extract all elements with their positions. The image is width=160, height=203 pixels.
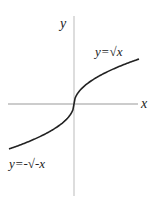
curve-neg-sqrt-neg-x	[9, 104, 74, 149]
curve-sqrt-x	[74, 59, 139, 104]
x-axis-label: x	[140, 96, 148, 111]
annotation-sqrt-x: y=√x	[93, 44, 123, 59]
annotation-neg-sqrt-neg-x: y=-√-x	[7, 156, 45, 171]
sqrt-function-plot: y x y=√x y=-√-x	[0, 0, 160, 203]
y-axis-label: y	[58, 16, 67, 31]
